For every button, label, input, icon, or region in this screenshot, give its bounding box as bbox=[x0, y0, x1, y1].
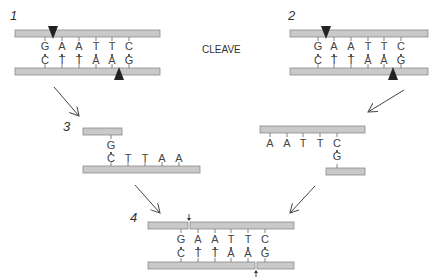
dna-cleavage-diagram: 1 G A A T T C C T T A A G CLEAVE 2 bbox=[0, 0, 438, 279]
cleave-label: CLEAVE bbox=[202, 44, 241, 55]
svg-text:C: C bbox=[177, 247, 185, 259]
svg-text:G: G bbox=[41, 40, 50, 52]
svg-text:T: T bbox=[109, 40, 116, 52]
svg-text:A: A bbox=[244, 247, 252, 259]
svg-text:A: A bbox=[364, 54, 372, 66]
nick-arrow-top-icon bbox=[187, 214, 191, 221]
svg-text:T: T bbox=[59, 54, 66, 66]
svg-text:A: A bbox=[227, 247, 235, 259]
panel-4: 4 G A A T T C C T T A A G bbox=[130, 210, 294, 277]
svg-text:G: G bbox=[125, 54, 134, 66]
bottom-strand bbox=[290, 68, 428, 75]
svg-text:C: C bbox=[397, 40, 405, 52]
base-pairs: G A A T T C C T T A A G bbox=[314, 37, 406, 68]
arrow-3-right-to-4-icon bbox=[290, 186, 315, 213]
svg-text:C: C bbox=[125, 40, 133, 52]
svg-text:C: C bbox=[333, 137, 341, 149]
panel-1-number: 1 bbox=[10, 8, 17, 23]
svg-text:T: T bbox=[300, 137, 307, 149]
nick-arrow-bottom-icon bbox=[254, 270, 258, 277]
svg-text:A: A bbox=[283, 137, 291, 149]
svg-text:A: A bbox=[108, 54, 116, 66]
svg-text:G: G bbox=[107, 139, 116, 151]
svg-text:A: A bbox=[266, 137, 274, 149]
svg-text:G: G bbox=[314, 40, 323, 52]
svg-text:A: A bbox=[330, 40, 338, 52]
left-fragment: G C T T A A bbox=[83, 128, 200, 173]
arrow-2-to-3-icon bbox=[368, 90, 404, 112]
svg-text:T: T bbox=[317, 137, 324, 149]
svg-text:C: C bbox=[261, 233, 269, 245]
top-strand-left bbox=[148, 222, 188, 229]
svg-text:T: T bbox=[212, 247, 219, 259]
top-strand bbox=[290, 30, 428, 37]
panel-3: 3 G C T T A A A A T T C G bbox=[63, 119, 365, 175]
svg-text:A: A bbox=[347, 40, 355, 52]
svg-text:T: T bbox=[195, 247, 202, 259]
top-strand-long bbox=[260, 126, 365, 133]
svg-text:G: G bbox=[397, 54, 406, 66]
svg-text:G: G bbox=[177, 233, 186, 245]
panel-3-number: 3 bbox=[63, 119, 71, 134]
svg-text:A: A bbox=[92, 54, 100, 66]
svg-text:A: A bbox=[75, 40, 83, 52]
panel-1: 1 G A A T T C C T T A A G bbox=[10, 8, 160, 80]
svg-text:T: T bbox=[245, 233, 252, 245]
arrow-3-left-to-4-icon bbox=[135, 185, 160, 213]
svg-text:T: T bbox=[76, 54, 83, 66]
svg-text:T: T bbox=[228, 233, 235, 245]
right-fragment: A A T T C G bbox=[260, 126, 365, 175]
bottom-strand-short bbox=[326, 168, 365, 175]
panel-2: 2 G A A T T C C T T A A G bbox=[287, 8, 428, 80]
top-strand-right bbox=[190, 222, 294, 229]
panel-4-number: 4 bbox=[130, 210, 137, 225]
svg-text:C: C bbox=[314, 54, 322, 66]
svg-text:A: A bbox=[380, 54, 388, 66]
svg-text:A: A bbox=[58, 40, 66, 52]
svg-text:T: T bbox=[381, 40, 388, 52]
base-pairs: G A A T T C C T T A A G bbox=[41, 37, 134, 68]
svg-text:G: G bbox=[333, 150, 342, 162]
svg-text:T: T bbox=[93, 40, 100, 52]
base-pairs: G A A T T C C T T A A G bbox=[177, 229, 270, 262]
bottom-strand bbox=[15, 68, 160, 75]
panel-2-number: 2 bbox=[287, 8, 296, 23]
svg-text:T: T bbox=[348, 54, 355, 66]
svg-text:T: T bbox=[331, 54, 338, 66]
svg-text:G: G bbox=[261, 247, 270, 259]
top-strand bbox=[15, 30, 160, 37]
svg-text:T: T bbox=[365, 40, 372, 52]
svg-text:C: C bbox=[41, 54, 49, 66]
svg-text:A: A bbox=[211, 233, 219, 245]
top-strand-short bbox=[83, 128, 122, 135]
bottom-strand-right bbox=[257, 262, 294, 269]
svg-text:A: A bbox=[194, 233, 202, 245]
bottom-strand-long bbox=[83, 166, 200, 173]
bottom-strand-left bbox=[148, 262, 255, 269]
arrow-1-to-3-icon bbox=[54, 87, 79, 116]
